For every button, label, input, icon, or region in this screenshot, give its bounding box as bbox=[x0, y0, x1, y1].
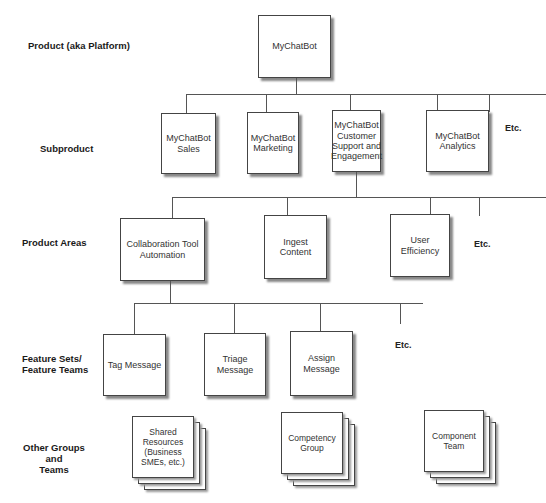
level-label-other-groups-line2: Teams bbox=[14, 465, 94, 476]
level-label-other-groups-line1: Other Groups and bbox=[14, 443, 94, 465]
etc-subproducts: Etc. bbox=[505, 123, 522, 133]
connector bbox=[400, 303, 401, 324]
connector bbox=[134, 303, 135, 334]
node-group-competency: Competency Group bbox=[281, 412, 357, 488]
level-label-feature-sets: Feature Sets/ Feature Teams bbox=[22, 354, 88, 376]
connector bbox=[172, 197, 173, 218]
node-subproduct-support: MyChatBot Customer Support and Engagemen… bbox=[332, 110, 381, 172]
connector bbox=[172, 197, 546, 198]
connector bbox=[170, 281, 171, 304]
connector bbox=[234, 303, 235, 333]
connector bbox=[320, 303, 321, 331]
node-subproduct-sales: MyChatBot Sales bbox=[161, 113, 216, 174]
node-label: Shared Resources (Business SMEs, etc.) bbox=[132, 416, 194, 478]
node-feature-tag-message: Tag Message bbox=[103, 334, 166, 396]
node-label: Component Team bbox=[424, 410, 484, 472]
connector bbox=[489, 94, 490, 112]
node-feature-triage-message: Triage Message bbox=[204, 333, 266, 396]
level-label-other-groups: Other Groups and Teams bbox=[14, 443, 94, 476]
connector bbox=[296, 78, 297, 94]
node-label: Competency Group bbox=[281, 412, 343, 474]
etc-product-areas: Etc. bbox=[474, 239, 491, 249]
connector bbox=[350, 94, 351, 110]
connector bbox=[356, 172, 357, 198]
level-label-product-areas: Product Areas bbox=[22, 237, 87, 248]
connector bbox=[186, 94, 546, 95]
connector bbox=[479, 197, 480, 216]
connector bbox=[437, 94, 438, 110]
etc-feature-sets: Etc. bbox=[395, 340, 412, 350]
node-group-shared-resources: Shared Resources (Business SMEs, etc.) bbox=[132, 416, 208, 492]
node-subproduct-analytics: MyChatBot Analytics bbox=[426, 110, 489, 172]
connector bbox=[186, 94, 187, 113]
node-area-ingest: Ingest Content bbox=[264, 215, 327, 279]
node-area-collaboration: Collaboration Tool Automation bbox=[120, 218, 205, 281]
connector bbox=[287, 197, 288, 215]
level-label-product: Product (aka Platform) bbox=[28, 40, 130, 51]
node-feature-assign-message: Assign Message bbox=[290, 331, 353, 396]
connector bbox=[134, 303, 423, 304]
connector bbox=[266, 94, 267, 112]
node-subproduct-marketing: MyChatBot Marketing bbox=[247, 112, 299, 174]
node-area-user-efficiency: User Efficiency bbox=[390, 214, 450, 277]
node-product: MyChatBot bbox=[258, 15, 331, 78]
node-group-component-team: Component Team bbox=[424, 410, 500, 486]
level-label-subproduct: Subproduct bbox=[40, 143, 93, 154]
level-label-feature-sets-line2: Feature Teams bbox=[22, 365, 88, 376]
connector bbox=[430, 197, 431, 214]
